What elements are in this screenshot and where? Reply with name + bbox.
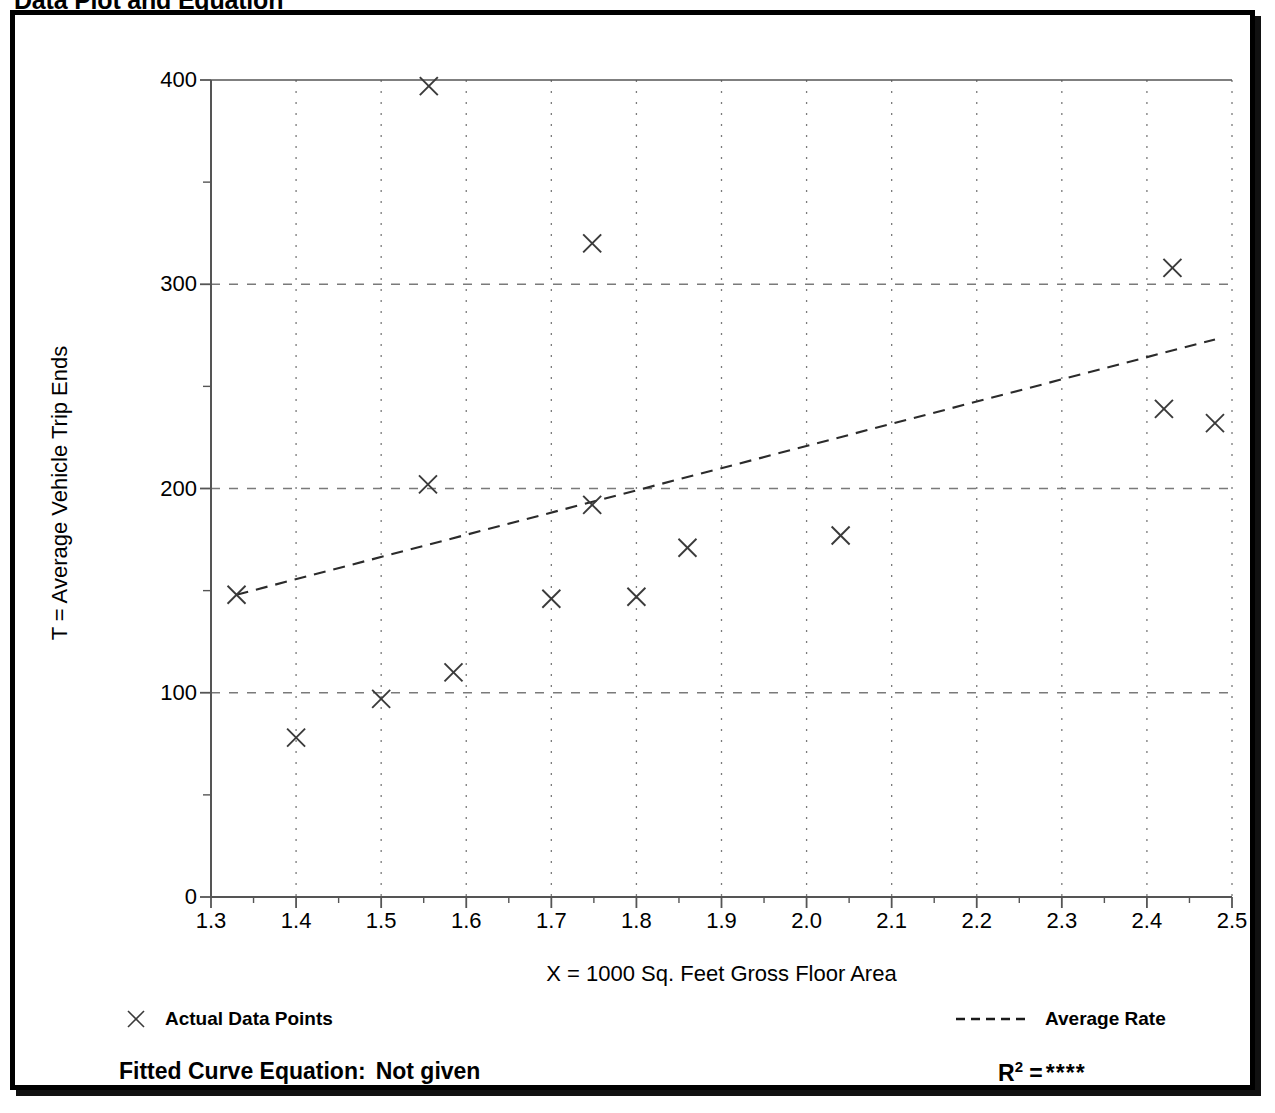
y-axis-tick-label-3: 300 [160, 271, 197, 297]
legend-label-actual-data-points: Actual Data Points [165, 1008, 333, 1030]
legend-item-average-rate: Average Rate [955, 1008, 1166, 1030]
y-axis-tick-label-0: 0 [185, 884, 197, 910]
x-axis-tick-label-10: 2.3 [1047, 908, 1078, 934]
chart-frame: 0100200300400 T = Average Vehicle Trip E… [10, 10, 1255, 1090]
y-axis-title: T = Average Vehicle Trip Ends [47, 213, 73, 773]
x-marker-icon [125, 1008, 147, 1030]
scatter-plot-svg [211, 80, 1232, 897]
y-axis-tick-labels: 0100200300400 [125, 80, 197, 897]
y-axis-tick-label-4: 400 [160, 67, 197, 93]
y-axis-tick-label-1: 100 [160, 680, 197, 706]
r-squared-annotation: R2 =**** [998, 1058, 1086, 1087]
fitted-curve-equation-value: Not given [376, 1058, 481, 1084]
y-axis-tick-label-2: 200 [160, 476, 197, 502]
frame-shadow-bottom [16, 1090, 1261, 1096]
data-point-marker [583, 496, 601, 514]
data-point-marker [287, 729, 305, 747]
data-point-marker [444, 663, 462, 681]
data-point-marker [419, 475, 437, 493]
x-axis-tick-label-0: 1.3 [196, 908, 227, 934]
chart-legend: Actual Data Points Average Rate [15, 1008, 1260, 1042]
x-axis-tick-label-12: 2.5 [1217, 908, 1248, 934]
data-point-marker [1155, 400, 1173, 418]
plot-area [211, 80, 1232, 897]
x-axis-tick-label-3: 1.6 [451, 908, 482, 934]
average-rate-trend-line [237, 339, 1215, 594]
fitted-curve-equation-label: Fitted Curve Equation: [119, 1058, 366, 1084]
r-squared-exponent: 2 [1015, 1058, 1023, 1075]
data-point-marker [832, 526, 850, 544]
x-axis-tick-label-5: 1.8 [621, 908, 652, 934]
x-axis-title: X = 1000 Sq. Feet Gross Floor Area [211, 961, 1232, 987]
r-squared-value: **** [1046, 1060, 1086, 1086]
data-point-marker [1206, 414, 1224, 432]
x-axis-tick-label-2: 1.5 [366, 908, 397, 934]
x-axis-tick-label-11: 2.4 [1132, 908, 1163, 934]
frame-shadow-right [1255, 16, 1261, 1096]
x-axis-tick-label-9: 2.2 [961, 908, 992, 934]
data-point-marker [228, 586, 246, 604]
x-axis-tick-label-1: 1.4 [281, 908, 312, 934]
grid-lines [211, 80, 1232, 897]
x-axis-tick-labels: 1.31.41.51.61.71.81.92.02.12.22.32.42.5 [211, 908, 1232, 938]
data-point-marker [678, 539, 696, 557]
data-point-marker [1163, 259, 1181, 277]
fitted-curve-equation: Fitted Curve Equation:Not given [119, 1058, 480, 1085]
data-point-marker [583, 234, 601, 252]
x-axis-tick-label-8: 2.1 [876, 908, 907, 934]
data-point-marker [542, 590, 560, 608]
dashed-line-icon [955, 1013, 1029, 1025]
data-point-marker [627, 588, 645, 606]
axis-tick-marks [200, 80, 1232, 908]
x-axis-tick-label-4: 1.7 [536, 908, 567, 934]
x-axis-tick-label-7: 2.0 [791, 908, 822, 934]
equation-row: Fitted Curve Equation:Not given R2 =**** [15, 1058, 1260, 1092]
legend-item-actual-data-points: Actual Data Points [125, 1008, 333, 1030]
data-point-markers [228, 77, 1224, 747]
x-axis-tick-label-6: 1.9 [706, 908, 737, 934]
r-squared-label: R [998, 1060, 1015, 1086]
legend-label-average-rate: Average Rate [1045, 1008, 1166, 1030]
r-squared-equals: = [1029, 1060, 1042, 1086]
